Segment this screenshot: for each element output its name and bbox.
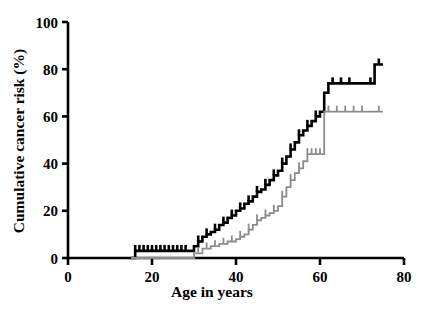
plot-area: 020406080100020406080 [0,0,424,309]
y-axis-label: Cumulative cancer risk (%) [10,16,28,266]
y-tick-label: 40 [43,156,58,172]
series-line-gray-curve [131,112,383,258]
y-tick-label: 60 [43,109,58,125]
y-tick-label: 80 [43,62,58,78]
axis-layer [62,22,404,265]
y-tick-label: 100 [36,15,59,31]
series-layer [131,58,383,258]
cumulative-cancer-risk-chart: 020406080100020406080 Cumulative cancer … [0,0,424,309]
y-tick-label: 20 [43,203,58,219]
x-axis-label: Age in years [0,283,424,301]
y-tick-label: 0 [51,251,59,267]
series-line-black-curve [131,64,383,258]
